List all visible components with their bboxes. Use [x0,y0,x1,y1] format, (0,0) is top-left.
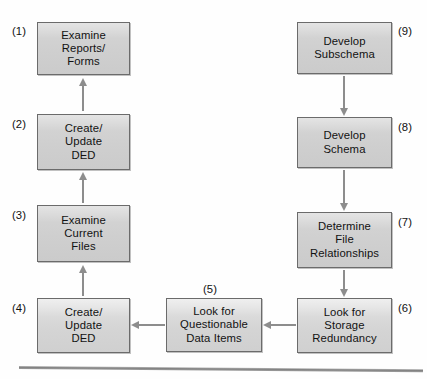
arrow-6-to-5-icon [263,321,296,330]
process-box-5[interactable]: Look for Questionable Data Items [166,298,262,352]
process-box-2[interactable]: Create/ Update DED [37,114,130,170]
process-box-7[interactable]: Determine File Relationships [297,212,392,268]
step-label-4: (4) [12,302,26,315]
step-label-1: (1) [12,25,26,38]
process-box-8[interactable]: Develop Schema [297,117,392,168]
process-box-1[interactable]: Examine Reports/ Forms [37,22,130,75]
arrow-2-to-1-icon [79,78,88,111]
step-label-7: (7) [398,216,412,229]
process-box-3[interactable]: Examine Current Files [37,205,130,262]
step-label-2: (2) [12,118,26,131]
arrow-5-to-4-icon [131,321,165,330]
flowchart-canvas: Examine Reports/ Forms (1) Create/ Updat… [0,0,427,379]
arrow-8-to-7-icon [340,170,349,211]
process-box-4[interactable]: Create/ Update DED [37,298,130,353]
bottom-divider [19,366,423,372]
step-label-5: (5) [203,283,217,296]
step-label-9: (9) [398,25,412,38]
step-label-6: (6) [398,302,412,315]
arrow-4-to-3-icon [79,265,88,296]
arrow-7-to-6-icon [340,270,349,297]
step-label-3: (3) [12,209,26,222]
arrow-9-to-8-icon [340,76,349,116]
arrow-3-to-2-icon [79,172,88,203]
process-box-6[interactable]: Look for Storage Redundancy [297,298,392,353]
process-box-9[interactable]: Develop Subschema [297,22,392,74]
step-label-8: (8) [398,121,412,134]
